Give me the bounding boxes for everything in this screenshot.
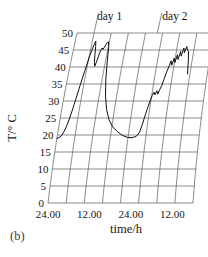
y-axis-label: T/° C <box>5 114 19 142</box>
y-tick-label: 45 <box>58 44 70 56</box>
y-tick-label: 10 <box>37 163 49 175</box>
x-axis-tick-labels: 24.0012.0024.0012.00 <box>36 208 186 220</box>
x-tick-label: 12.00 <box>160 208 185 220</box>
y-tick-label: 20 <box>42 129 54 141</box>
x-tick-label: 24.00 <box>36 208 61 220</box>
y-tick-label: 50 <box>62 27 74 39</box>
chart-svg: 05101520253035404550 24.0012.0024.0012.0… <box>0 0 208 257</box>
x-tick-label: 12.00 <box>77 208 102 220</box>
day-separator-tick <box>157 13 162 33</box>
y-tick-label: 40 <box>55 61 67 73</box>
y-tick-label: 15 <box>40 146 52 158</box>
x-axis-label: time/h <box>110 222 143 236</box>
horizontal-gridlines <box>48 33 208 203</box>
x-tick-label: 24.00 <box>119 208 144 220</box>
grid-group <box>48 33 208 203</box>
day-annotations: day 1day 2 <box>94 10 208 33</box>
panel-label: (b) <box>10 229 25 243</box>
y-tick-label: 35 <box>51 78 63 90</box>
day-annotation: day 2 <box>162 10 187 23</box>
y-tick-label: 5 <box>41 180 47 192</box>
day-annotation: day 1 <box>97 10 122 23</box>
y-tick-label: 25 <box>45 112 57 124</box>
figure-panel: 05101520253035404550 24.0012.0024.0012.0… <box>0 0 208 257</box>
y-tick-label: 30 <box>48 95 60 107</box>
